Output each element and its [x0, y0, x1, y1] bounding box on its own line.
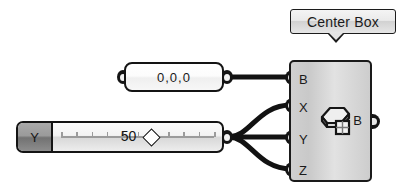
input-label-x: X — [299, 101, 308, 114]
slider-name-tab[interactable]: Y — [18, 123, 53, 151]
input-label-z: Z — [299, 164, 307, 177]
node-input-column: B X Y Z — [291, 62, 317, 180]
wire-slider-to-x — [229, 105, 291, 137]
panel-value: 0,0,0 — [157, 71, 191, 84]
number-slider-component[interactable]: Y 50 — [16, 121, 224, 153]
tooltip-label: Center Box — [307, 15, 379, 29]
tooltip-pointer-fill — [329, 33, 343, 40]
slider-name-label: Y — [30, 131, 39, 144]
input-label-y: Y — [299, 133, 308, 146]
output-label-b: B — [353, 114, 362, 127]
slider-value: 50 — [53, 129, 222, 143]
slider-track[interactable]: 50 — [53, 123, 222, 151]
input-label-b: B — [299, 73, 308, 86]
center-box-icon — [319, 104, 353, 138]
grasshopper-canvas[interactable]: Center Box 0,0,0 Y 50 — [0, 0, 409, 196]
wire-slider-to-z — [229, 137, 291, 169]
center-box-component[interactable]: B X Y Z B — [289, 60, 372, 182]
panel-component[interactable]: 0,0,0 — [124, 62, 224, 92]
tooltip-center-box: Center Box — [290, 9, 396, 34]
